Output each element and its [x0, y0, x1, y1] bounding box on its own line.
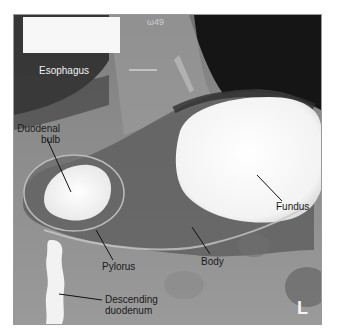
label-descending-duodenum: Descending duodenum	[105, 294, 158, 316]
label-duodenal-bulb-line2: bulb	[14, 134, 60, 145]
figure-canvas: ω49 Esophagus Duodenal bulb Fundus Pylor…	[0, 0, 338, 336]
xray-radiograph	[14, 15, 321, 324]
label-fundus: Fundus	[276, 201, 309, 212]
xray-image-frame: ω49 Esophagus Duodenal bulb Fundus Pylor…	[13, 14, 322, 325]
label-descending-duodenum-line1: Descending	[105, 294, 158, 305]
label-duodenal-bulb: Duodenal bulb	[14, 123, 60, 145]
label-body: Body	[201, 256, 224, 267]
orientation-marker-left: L	[297, 298, 308, 319]
label-esophagus: Esophagus	[39, 65, 89, 76]
label-descending-duodenum-line2: duodenum	[105, 305, 158, 316]
label-pylorus: Pylorus	[102, 261, 135, 272]
corner-id-text: ω49	[147, 17, 164, 27]
label-duodenal-bulb-line1: Duodenal	[14, 123, 60, 134]
